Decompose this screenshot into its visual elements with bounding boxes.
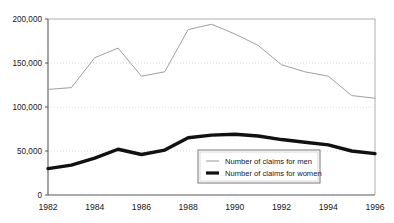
y-tick-label-0: 0 [37,191,42,200]
x-tick-label-1982: 1982 [38,202,57,212]
y-tick-label-50000: 50,000 [17,147,42,156]
x-tick-label-1990: 1990 [225,202,244,212]
chart-figure: 050,000100,000150,000200,000 19821984198… [0,0,394,223]
x-tick-label-1984: 1984 [85,202,104,212]
x-tick-label-1988: 1988 [179,202,198,212]
chart-background [0,0,394,223]
x-tick-label-1992: 1992 [272,202,291,212]
legend-label-men: Number of claims for men [225,157,312,166]
legend-label-women: Number of claims for women [225,169,322,178]
chart-legend: Number of claims for menNumber of claims… [198,150,322,183]
line-chart-svg: 050,000100,000150,000200,000 19821984198… [0,0,394,223]
y-tick-label-100000: 100,000 [12,103,42,112]
x-tick-label-1994: 1994 [319,202,338,212]
y-tick-label-200000: 200,000 [12,15,42,24]
y-tick-label-150000: 150,000 [12,59,42,68]
legend-box [198,150,320,183]
x-tick-label-1986: 1986 [132,202,151,212]
x-tick-label-1996: 1996 [365,202,384,212]
